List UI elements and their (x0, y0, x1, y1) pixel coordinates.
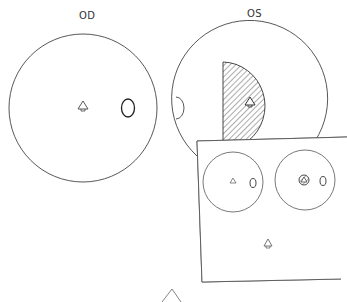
od-blind-spot (122, 99, 135, 117)
os-hatched-defect (223, 62, 265, 141)
bottom-triangle-icon (162, 289, 181, 302)
inset-card (197, 137, 347, 282)
visual-field-diagram (0, 0, 347, 302)
os-blind-spot (176, 97, 184, 119)
od-fixation-icon (78, 101, 88, 111)
od-field (9, 34, 157, 182)
os-field (172, 20, 328, 156)
